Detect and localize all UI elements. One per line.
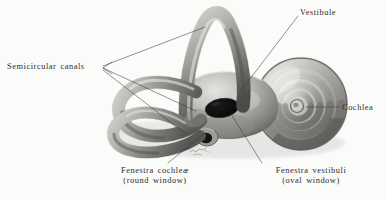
label-fenestra-cochleae-line1: Fenestra cochleæ [92,166,218,176]
label-fenestra-vestibuli-line2: (oval window) [248,176,374,186]
label-cochlea: Cochlea [342,103,373,113]
label-fenestra-vestibuli: Fenestra vestibuli (oval window) [248,166,374,187]
label-fenestra-cochleae: Fenestra cochleæ (round window) [92,166,218,187]
anatomical-plate: Semicircular canals Vestibule Cochlea Fe… [0,0,387,200]
label-fenestra-vestibuli-line1: Fenestra vestibuli [248,166,374,176]
label-semicircular-canals: Semicircular canals [7,62,85,72]
label-fenestra-cochleae-line2: (round window) [92,176,218,186]
label-vestibule: Vestibule [300,8,336,18]
